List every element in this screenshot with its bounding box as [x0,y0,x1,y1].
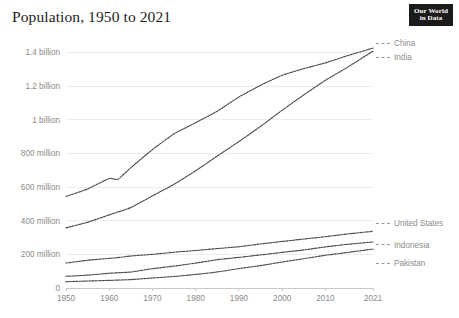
x-axis-tick-label: 1980 [187,294,206,303]
legend-connector-line [376,244,390,246]
y-axis-tick-label: 0 [55,284,60,293]
x-axis-tick-labels: 19501960197019801990200020102021 [57,294,383,303]
series-line-china [66,48,373,196]
x-axis-tick-label: 1970 [143,294,162,303]
series-line-india [66,51,373,228]
y-axis-tick-label: 800 million [21,149,61,158]
x-axis-tick-label: 2010 [316,294,335,303]
gridlines [66,52,373,254]
y-axis-tick-label: 600 million [21,183,61,192]
x-axis-tick-label: 2000 [273,294,292,303]
legend-connector-line [376,223,390,225]
y-axis-tick-label: 1 billion [32,116,60,125]
x-axis-tick-label: 1990 [230,294,249,303]
y-axis-tick-labels: 0200 million400 million600 million800 mi… [21,48,61,293]
y-axis-tick-label: 200 million [21,250,61,259]
legend-label: India [394,53,412,62]
legend-label: China [394,39,415,48]
legend-label: Indonesia [394,241,430,250]
y-axis-tick-label: 1.2 billion [25,82,60,91]
series-line-united-states [66,231,373,263]
legend-connector-line [376,57,390,59]
legend-connector-line [376,263,390,265]
y-axis-tick-label: 400 million [21,217,61,226]
legend-label: Pakistan [394,259,425,268]
legend-label: United States [394,219,443,228]
legend-item-pakistan[interactable]: Pakistan [376,259,425,268]
x-axis [66,288,373,291]
y-axis-tick-label: 1.4 billion [25,48,60,57]
data-series-lines [66,48,373,282]
legend-item-indonesia[interactable]: Indonesia [376,241,430,250]
x-axis-tick-label: 1960 [100,294,119,303]
legend-connector-line [376,43,390,45]
legend-item-united-states[interactable]: United States [376,219,443,228]
x-axis-tick-label: 2021 [364,294,383,303]
chart-root: Population, 1950 to 2021 Our World in Da… [0,0,459,318]
x-axis-tick-label: 1950 [57,294,76,303]
legend-item-china[interactable]: China [376,39,415,48]
legend-item-india[interactable]: India [376,53,412,62]
